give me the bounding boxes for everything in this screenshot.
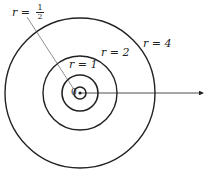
polar-circles-diagram: r = 1 2 r = 1 r = 2 r = 4 0 bbox=[0, 0, 207, 177]
origin-label: 0 bbox=[71, 87, 77, 97]
label-r-4: r = 4 bbox=[143, 37, 171, 50]
circles-svg bbox=[0, 0, 207, 177]
label-r-1: r = 1 bbox=[69, 58, 97, 71]
label-r-2: r = 2 bbox=[101, 46, 129, 59]
fraction-one-half: 1 2 bbox=[36, 4, 43, 21]
label-r-half: r = 1 2 bbox=[12, 4, 44, 21]
leader-line-half bbox=[27, 17, 73, 88]
